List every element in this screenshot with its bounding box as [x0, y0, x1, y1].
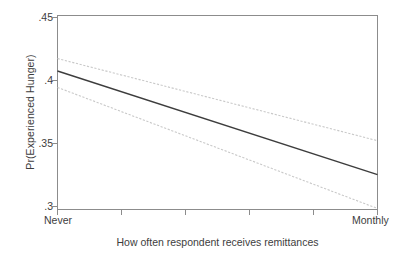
data-series-group — [58, 59, 378, 209]
x-axis-ticks — [58, 210, 378, 215]
series-line-1 — [58, 59, 378, 141]
series-line-2 — [58, 71, 378, 175]
y-axis-ticks — [52, 18, 57, 207]
series-line-3 — [58, 87, 378, 208]
plot-area — [0, 0, 406, 263]
chart-container: Pr(Experienced Hunger) .45 .4 .35 .3 Nev… — [0, 0, 406, 263]
